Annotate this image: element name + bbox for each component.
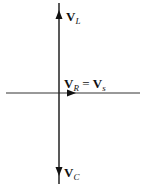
label-vc-symbol: V bbox=[64, 165, 73, 180]
arrow-up-icon bbox=[56, 10, 63, 19]
label-vc-subscript: C bbox=[73, 172, 79, 182]
label-vs-subscript: s bbox=[102, 83, 106, 93]
arrow-down-icon bbox=[56, 167, 63, 176]
label-vl-subscript: L bbox=[75, 16, 80, 26]
label-vl-symbol: V bbox=[66, 9, 75, 24]
phasor-diagram bbox=[0, 0, 143, 189]
label-vr-vs: VR = Vs bbox=[64, 77, 106, 93]
label-vr-symbol: V bbox=[64, 76, 73, 91]
label-vc: VC bbox=[64, 166, 79, 182]
label-equals: = bbox=[79, 76, 93, 91]
label-vs-symbol: V bbox=[93, 76, 102, 91]
label-vl: VL bbox=[66, 10, 80, 26]
